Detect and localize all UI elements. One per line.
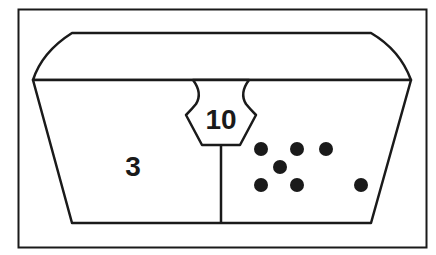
left-compartment-value: 3 <box>125 151 141 182</box>
dot-5 <box>254 178 268 192</box>
tray-diagram: 10 3 <box>0 0 436 255</box>
dot-1 <box>254 142 268 156</box>
dot-4 <box>273 160 287 174</box>
dot-3 <box>319 142 333 156</box>
tray-lid <box>33 33 411 80</box>
dot-7 <box>354 178 368 192</box>
dot-2 <box>290 142 304 156</box>
dot-6 <box>290 178 304 192</box>
badge-value: 10 <box>205 104 236 135</box>
